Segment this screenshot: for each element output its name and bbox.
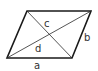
label-d: d bbox=[35, 43, 41, 54]
label-a: a bbox=[34, 60, 40, 71]
label-c: c bbox=[44, 18, 50, 29]
label-b: b bbox=[84, 32, 90, 43]
parallelogram-diagram: a b c d bbox=[0, 0, 98, 71]
